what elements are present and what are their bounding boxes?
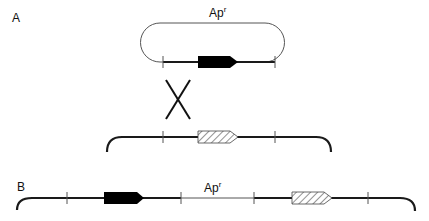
integrated-line-left bbox=[17, 198, 181, 210]
panel-label-a: A bbox=[12, 12, 20, 24]
plasmid bbox=[141, 23, 285, 68]
marker-superscript: r bbox=[224, 5, 227, 14]
marker-superscript: r bbox=[219, 180, 222, 189]
arrow-box-solid-icon bbox=[198, 56, 238, 68]
integrated-line-right bbox=[254, 198, 415, 211]
arrow-box-solid-icon bbox=[104, 192, 144, 204]
arrow-box-hatched-icon bbox=[292, 192, 332, 204]
arrow-box-hatched-icon bbox=[198, 131, 238, 143]
marker-text: Ap bbox=[204, 181, 219, 195]
plasmid-marker-label: Apr bbox=[209, 7, 226, 19]
panel-a bbox=[107, 23, 331, 152]
x-cross-icon bbox=[166, 80, 190, 119]
recombination-diagram: A Apr B Apr bbox=[0, 0, 429, 221]
panel-label-b: B bbox=[17, 181, 25, 193]
marker-text: Ap bbox=[209, 6, 224, 20]
integrated-marker-label: Apr bbox=[204, 182, 221, 194]
chromosome bbox=[107, 131, 331, 152]
